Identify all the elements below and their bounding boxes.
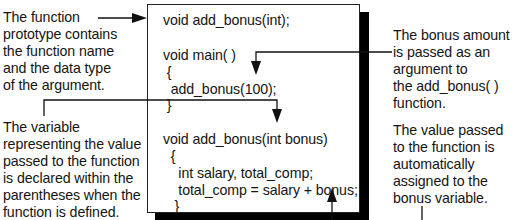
code-line-declare: int salary, total_comp; — [163, 165, 313, 182]
callout-function-prototype: The function prototype contains the func… — [3, 9, 133, 94]
callout-bonus-argument: The bonus amount is passed as an argumen… — [393, 27, 514, 112]
callout-parameter-variable: The variable representing the value pass… — [3, 119, 143, 220]
callout-value-assigned: The value passed to the function is auto… — [393, 122, 514, 207]
code-line-assign: total_comp = salary + bonus; — [163, 182, 358, 199]
code-line-main-open: { — [163, 64, 171, 81]
code-box: void add_bonus(int); void main( ) { add_… — [147, 4, 360, 213]
code-line-def-close: } — [163, 198, 179, 215]
code-line-def-open: { — [163, 148, 175, 165]
code-line-main-close: } — [163, 97, 171, 114]
code-line-main: void main( ) — [163, 47, 236, 64]
code-line-definition: void add_bonus(int bonus) — [163, 131, 328, 148]
code-line-prototype: void add_bonus(int); — [163, 12, 290, 29]
code-line-call: add_bonus(100); — [163, 81, 276, 98]
